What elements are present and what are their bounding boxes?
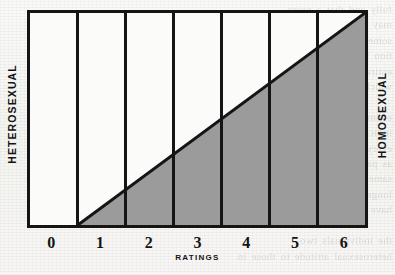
x-tick-2: 2 bbox=[124, 232, 173, 254]
left-axis-label-heterosexual: HETEROSEXUAL bbox=[6, 64, 18, 164]
column-divider-6 bbox=[316, 13, 319, 225]
x-axis-tick-labels: 0 1 2 3 4 5 6 bbox=[27, 232, 368, 254]
x-tick-3: 3 bbox=[173, 232, 222, 254]
column-divider-3 bbox=[172, 13, 175, 225]
column-divider-4 bbox=[220, 13, 223, 225]
x-tick-4: 4 bbox=[222, 232, 271, 254]
right-axis-label-homosexual: HOMOSEXUAL bbox=[376, 65, 388, 165]
column-divider-1 bbox=[76, 13, 79, 225]
x-tick-6: 6 bbox=[319, 232, 368, 254]
column-divider-5 bbox=[268, 13, 271, 225]
chart-frame bbox=[27, 10, 368, 228]
x-axis-title: RATINGS bbox=[27, 253, 368, 262]
x-tick-0: 0 bbox=[27, 232, 76, 254]
x-tick-5: 5 bbox=[271, 232, 320, 254]
x-tick-1: 1 bbox=[76, 232, 125, 254]
plot-area bbox=[30, 13, 365, 225]
column-divider-2 bbox=[124, 13, 127, 225]
figure-page: fully and that a point may we see the so… bbox=[0, 0, 395, 275]
